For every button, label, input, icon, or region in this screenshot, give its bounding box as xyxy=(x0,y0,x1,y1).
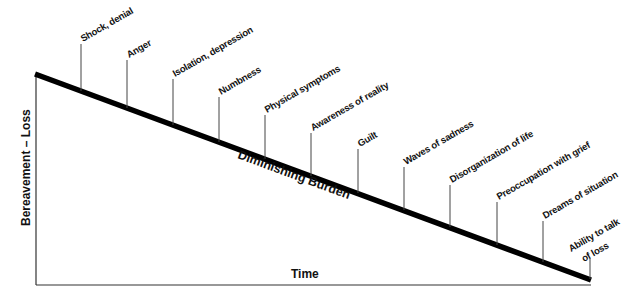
stage-label-anger: Anger xyxy=(125,37,154,60)
stage-label-physical-symptoms: Physical symptoms xyxy=(263,63,342,115)
stage-label-awareness-of-reality: Awareness of reality xyxy=(309,79,392,133)
x-axis-label: Time xyxy=(291,267,319,281)
trend-label: Diminishing Burden xyxy=(236,148,352,202)
grief-stages-diagram: Shock, denial Anger Isolation, depressio… xyxy=(0,0,628,301)
stage-label-guilt: Guilt xyxy=(356,128,380,148)
stage-ticks xyxy=(81,44,590,279)
stage-label-waves-of-sadness: Waves of sadness xyxy=(402,118,476,167)
y-axis-label: Bereavement – Loss xyxy=(19,109,33,226)
stage-label-isolation-depression: Isolation, depression xyxy=(171,24,255,79)
stage-label-dreams-of-situation: Dreams of situation xyxy=(541,169,620,221)
stage-label-shock-denial: Shock, denial xyxy=(79,5,135,44)
stage-label-numbness: Numbness xyxy=(217,64,263,97)
